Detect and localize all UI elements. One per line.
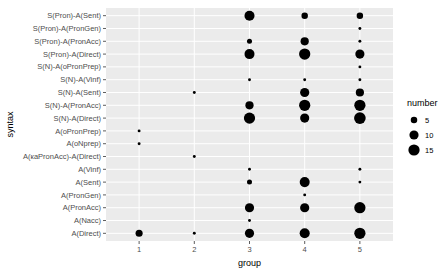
- data-point: [248, 168, 251, 171]
- legend-key: [411, 117, 417, 123]
- data-point: [356, 88, 364, 96]
- data-point: [245, 203, 254, 212]
- data-point: [358, 181, 361, 184]
- y-tick-label: A(PronAcc): [63, 203, 102, 212]
- x-tick-label: 2: [192, 245, 196, 254]
- data-point: [300, 228, 310, 238]
- legend: number 51015: [407, 98, 438, 156]
- y-tick-label: A(oNprep): [66, 139, 101, 148]
- data-point: [193, 91, 196, 94]
- data-point: [244, 112, 255, 123]
- y-tick-label: A(Nacc): [74, 216, 102, 225]
- legend-label: 5: [425, 116, 429, 125]
- y-tick-label: S(Pron)-A(PronAcc): [34, 37, 101, 46]
- y-tick-label: S(N)-A(Vinf): [60, 75, 101, 84]
- data-point: [358, 27, 361, 30]
- y-tick-label: S(Pron)-A(Sent): [47, 11, 101, 20]
- scatter-chart: A(Direct)A(Nacc)A(PronAcc)A(PronGen)A(Se…: [0, 0, 447, 278]
- data-point: [303, 193, 306, 196]
- data-point: [354, 228, 365, 239]
- y-tick-label: A(oPronPrep): [55, 127, 101, 136]
- data-point: [245, 101, 253, 109]
- data-point: [355, 50, 364, 59]
- y-tick-label: A(Vinf): [78, 165, 101, 174]
- data-point: [248, 78, 251, 81]
- y-tick-label: A(каPronAcc)-A(Direct): [23, 152, 102, 161]
- data-point: [248, 219, 251, 222]
- data-point: [300, 177, 310, 187]
- data-point: [193, 232, 196, 235]
- data-point: [244, 49, 254, 59]
- data-point: [138, 142, 141, 145]
- y-tick-label: S(N)-A(PronAcc): [45, 101, 102, 110]
- data-point: [357, 12, 363, 18]
- y-tick-label: S(Pron)-A(Direct): [43, 50, 101, 59]
- legend-label: 15: [425, 146, 433, 155]
- y-tick-label: A(Direct): [71, 229, 101, 238]
- data-point: [136, 230, 143, 237]
- data-point: [358, 65, 361, 68]
- data-point: [358, 40, 361, 43]
- y-tick-label: S(Pron)-A(PronGen): [33, 24, 102, 33]
- data-point: [354, 202, 365, 213]
- data-point: [193, 155, 196, 158]
- data-point: [247, 180, 252, 185]
- data-point: [303, 78, 306, 81]
- y-tick-label: S(N)-A(Direct): [54, 114, 102, 123]
- data-point: [358, 168, 361, 171]
- data-point: [354, 112, 366, 124]
- data-point: [358, 78, 361, 81]
- x-tick-label: 3: [247, 245, 251, 254]
- y-tick-label: A(Sent): [76, 178, 102, 187]
- data-point: [300, 203, 309, 212]
- data-point: [247, 39, 252, 44]
- x-tick-label: 1: [137, 245, 141, 254]
- y-tick-label: A(PronGen): [61, 191, 102, 200]
- x-axis: 12345: [137, 241, 362, 254]
- data-point: [299, 48, 310, 59]
- legend-key: [408, 144, 419, 155]
- data-point: [300, 88, 309, 97]
- y-axis-title: syntax: [5, 111, 15, 138]
- x-tick-label: 4: [303, 245, 307, 254]
- x-axis-title: group: [238, 258, 261, 268]
- y-tick-label: S(N)-A(Sent): [58, 88, 102, 97]
- legend-title: number: [407, 98, 438, 108]
- data-point: [301, 12, 307, 18]
- data-point: [299, 100, 310, 111]
- data-point: [244, 11, 254, 21]
- legend-label: 10: [425, 131, 433, 140]
- y-tick-label: S(N)-A(oPronPrep): [37, 62, 101, 71]
- data-point: [138, 129, 141, 132]
- x-tick-label: 5: [358, 245, 362, 254]
- data-point: [245, 229, 254, 238]
- data-point: [354, 100, 365, 111]
- legend-key: [409, 130, 418, 139]
- data-point: [300, 114, 309, 123]
- data-point: [301, 37, 309, 45]
- y-axis: A(Direct)A(Nacc)A(PronAcc)A(PronGen)A(Se…: [23, 11, 106, 238]
